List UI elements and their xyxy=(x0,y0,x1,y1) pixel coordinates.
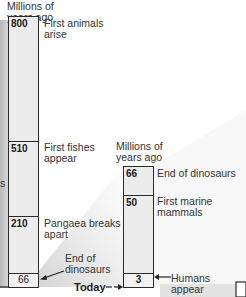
arrow-end-dinosaurs-icon xyxy=(38,268,66,282)
segment-210: 210 xyxy=(9,216,38,273)
event-first-animals: First animals arise xyxy=(44,18,104,40)
segment-50: 50 xyxy=(124,195,153,273)
segment-66-right: 66 xyxy=(124,167,153,195)
event-end-dinosaurs-left: End of dinosaurs xyxy=(65,253,111,275)
event-first-fishes: First fishes appear xyxy=(44,142,95,164)
segment-800: 800 xyxy=(9,17,38,141)
event-humans-appear: Humans appear xyxy=(171,273,210,295)
today-label: Today xyxy=(74,281,106,293)
cropped-text-fragment: s xyxy=(0,177,5,189)
event-end-dinosaurs-right: End of dinosaurs xyxy=(157,168,236,179)
right-axis-caption: Millions of years ago xyxy=(116,141,163,163)
right-timeline-bar: 66 50 3 xyxy=(123,166,154,288)
left-bar-shadow xyxy=(0,20,8,288)
arrow-humans-icon xyxy=(153,273,171,281)
left-timeline-bar: 800 510 210 66 xyxy=(8,16,39,288)
segment-510: 510 xyxy=(9,141,38,216)
segment-66: 66 xyxy=(9,273,38,287)
arrow-left-stub-icon xyxy=(0,283,10,291)
arrow-today-icon xyxy=(106,283,124,291)
event-pangaea: Pangaea breaks apart xyxy=(44,218,120,240)
segment-3: 3 xyxy=(124,273,153,287)
event-first-marine-mammals: First marine mammals xyxy=(157,196,212,218)
